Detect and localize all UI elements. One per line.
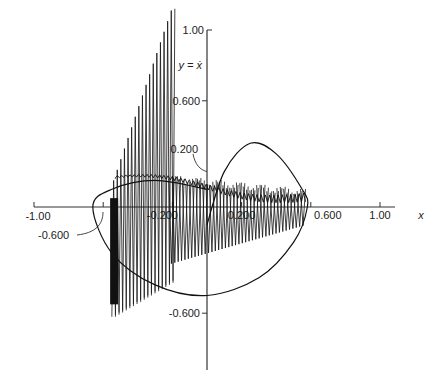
x-tick-label: 1.00 — [369, 209, 390, 221]
annotation-arrow — [193, 154, 207, 172]
x-axis-label: x — [417, 209, 424, 221]
y-tick-label: 0.600 — [172, 95, 200, 107]
x-tick-label: 0.600 — [314, 209, 342, 221]
y-annotation-label: 0.200 — [170, 143, 198, 155]
dense-band — [110, 198, 118, 304]
phase-plane-chart: -1.00-0.2000.2000.6001.00x-0.6001.00y = … — [0, 0, 441, 383]
x-tick-label: -1.00 — [25, 210, 50, 222]
x-annotation-label: -0.600 — [38, 229, 69, 241]
plot-area: -1.00-0.2000.2000.6001.00x-0.6001.00y = … — [0, 0, 441, 383]
oscillating-trajectory — [112, 9, 306, 317]
y-tick-label: -0.600 — [169, 307, 200, 319]
y-axis-label: y = ẋ — [177, 59, 202, 71]
y-tick-label: 1.00 — [183, 24, 204, 36]
